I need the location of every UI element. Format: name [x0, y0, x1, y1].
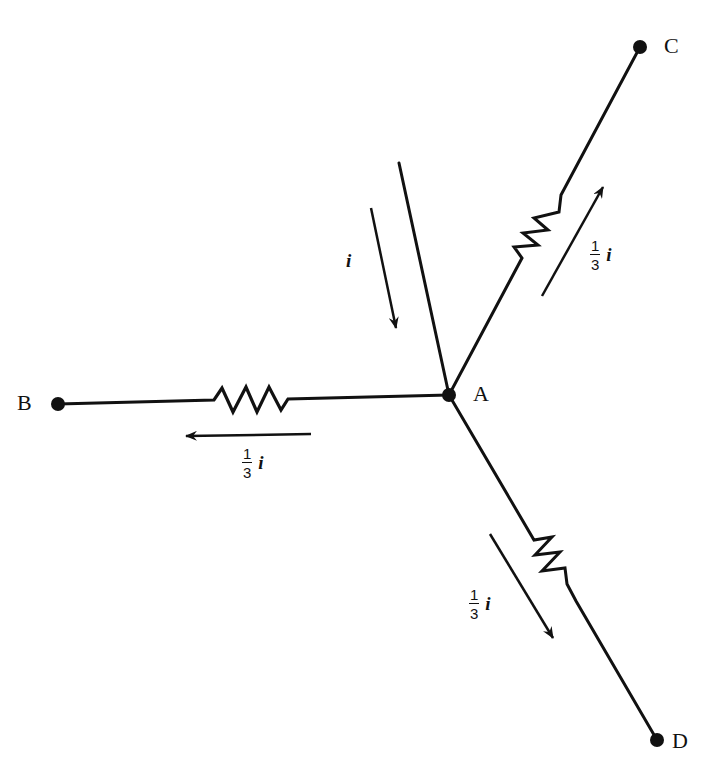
input-current-label: i — [346, 250, 351, 272]
fraction-numerator: 1 — [242, 446, 252, 463]
branch-ad-current-arrow-icon — [490, 534, 553, 638]
circuit-diagram — [0, 0, 715, 770]
node-b-dot — [51, 397, 65, 411]
fraction-numerator: 1 — [469, 587, 479, 604]
node-a-label: A — [473, 381, 489, 407]
branch-ab-wire — [58, 387, 449, 412]
node-c-dot — [633, 40, 647, 54]
fraction-variable: i — [258, 452, 263, 474]
node-d-dot — [650, 733, 664, 747]
fraction-denominator: 3 — [470, 604, 478, 621]
branch-ad-wire — [449, 395, 657, 740]
fraction-numerator: 1 — [590, 238, 600, 255]
fraction-variable: i — [606, 244, 611, 266]
branch-ab-current-arrow-icon — [186, 434, 311, 436]
node-d-label: D — [672, 728, 688, 754]
fraction-variable: i — [485, 593, 490, 615]
branch-ac-current-label: 1 3 i — [590, 238, 612, 272]
fraction-denominator: 3 — [591, 255, 599, 272]
branch-ad-current-label: 1 3 i — [469, 587, 491, 621]
branch-ab-current-label: 1 3 i — [242, 446, 264, 480]
node-a-dot — [442, 388, 456, 402]
fraction-denominator: 3 — [243, 463, 251, 480]
branch-ac-wire — [449, 47, 640, 395]
node-b-label: B — [17, 390, 32, 416]
node-c-label: C — [664, 33, 679, 59]
input-wire — [399, 163, 449, 395]
input-current-arrow-icon — [371, 208, 396, 328]
